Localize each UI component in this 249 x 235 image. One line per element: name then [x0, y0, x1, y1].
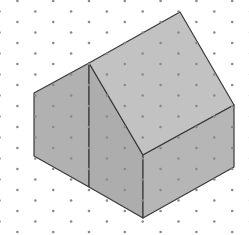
grid-dot	[0, 220, 1, 223]
grid-dot	[0, 31, 1, 34]
grid-dot	[88, 168, 91, 171]
grid-dot	[34, 199, 37, 202]
grid-dot	[52, 105, 55, 108]
grid-dot	[159, 105, 162, 108]
grid-dot	[213, 136, 216, 139]
grid-dot	[177, 10, 180, 13]
grid-dot	[195, 0, 198, 2]
grid-dot	[159, 189, 162, 192]
grid-dot	[231, 84, 234, 87]
grid-dot	[195, 147, 198, 150]
grid-dot	[52, 189, 55, 192]
grid-dot	[159, 210, 162, 213]
grid-dot	[0, 157, 1, 160]
grid-dot	[177, 178, 180, 181]
grid-dot	[141, 220, 144, 223]
grid-dot	[52, 21, 55, 24]
grid-dot	[177, 199, 180, 202]
grid-dot	[16, 231, 19, 234]
grid-dot	[88, 147, 91, 150]
grid-dot	[16, 189, 19, 192]
grid-dot	[34, 157, 37, 160]
grid-dot	[177, 157, 180, 160]
grid-dot	[70, 178, 73, 181]
grid-dot	[34, 31, 37, 34]
grid-dot	[124, 63, 127, 66]
grid-dot	[52, 126, 55, 129]
grid-dot	[159, 63, 162, 66]
grid-dot	[34, 178, 37, 181]
grid-dot	[141, 199, 144, 202]
grid-dot	[106, 178, 109, 181]
grid-dot	[195, 105, 198, 108]
grid-dot	[195, 231, 198, 234]
grid-dot	[159, 168, 162, 171]
grid-dot	[124, 42, 127, 45]
grid-dot	[231, 0, 234, 2]
grid-dot	[195, 63, 198, 66]
grid-dot	[141, 136, 144, 139]
grid-dot	[141, 31, 144, 34]
grid-dot	[70, 52, 73, 55]
grid-dot	[106, 157, 109, 160]
grid-dot	[0, 178, 1, 181]
house-faces	[34, 12, 234, 218]
grid-dot	[88, 84, 91, 87]
grid-dot	[0, 115, 1, 118]
grid-dot	[16, 126, 19, 129]
grid-dot	[213, 178, 216, 181]
grid-dot	[124, 105, 127, 108]
grid-dot	[88, 42, 91, 45]
grid-dot	[0, 136, 1, 139]
grid-dot	[195, 168, 198, 171]
grid-dot	[52, 0, 55, 2]
grid-dot	[195, 42, 198, 45]
grid-dot	[106, 136, 109, 139]
grid-dot	[106, 10, 109, 13]
grid-dot	[159, 231, 162, 234]
grid-dot	[70, 31, 73, 34]
grid-dot	[0, 199, 1, 202]
grid-dot	[88, 126, 91, 129]
grid-dot	[70, 136, 73, 139]
grid-dot	[16, 84, 19, 87]
grid-dot	[213, 73, 216, 76]
grid-dot	[124, 126, 127, 129]
grid-dot	[195, 189, 198, 192]
grid-dot	[124, 147, 127, 150]
grid-dot	[70, 220, 73, 223]
grid-dot	[141, 157, 144, 160]
grid-dot	[231, 21, 234, 24]
grid-dot	[16, 42, 19, 45]
grid-dot	[88, 210, 91, 213]
grid-dot	[159, 0, 162, 2]
grid-dot	[231, 210, 234, 213]
grid-dot	[159, 126, 162, 129]
grid-dot	[16, 105, 19, 108]
grid-dot	[52, 63, 55, 66]
grid-dot	[106, 199, 109, 202]
grid-dot	[159, 147, 162, 150]
grid-dot	[177, 52, 180, 55]
grid-dot	[34, 52, 37, 55]
grid-dot	[70, 115, 73, 118]
grid-dot	[141, 178, 144, 181]
grid-dot	[52, 168, 55, 171]
grid-dot	[88, 63, 91, 66]
grid-dot	[177, 115, 180, 118]
grid-dot	[177, 220, 180, 223]
grid-dot	[159, 42, 162, 45]
grid-dot	[88, 0, 91, 2]
grid-dot	[231, 126, 234, 129]
grid-dot	[52, 210, 55, 213]
grid-dot	[141, 52, 144, 55]
grid-dot	[177, 136, 180, 139]
grid-dot	[70, 10, 73, 13]
grid-dot	[124, 168, 127, 171]
grid-dot	[106, 52, 109, 55]
grid-dot	[124, 231, 127, 234]
grid-dot	[70, 94, 73, 97]
grid-dot	[213, 31, 216, 34]
grid-dot	[124, 21, 127, 24]
grid-dot	[213, 220, 216, 223]
